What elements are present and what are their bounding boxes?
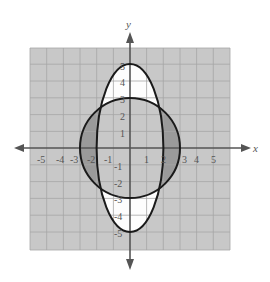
y-axis-label: y [125, 18, 131, 30]
svg-text:3: 3 [182, 154, 187, 165]
svg-text:-1: -1 [114, 161, 122, 172]
svg-text:5: 5 [211, 154, 216, 165]
svg-text:5: 5 [120, 61, 125, 72]
svg-text:-4: -4 [56, 154, 64, 165]
svg-text:-5: -5 [37, 154, 45, 165]
svg-text:-1: -1 [104, 154, 112, 165]
svg-text:-4: -4 [114, 211, 122, 222]
y-axis-up-arrow-icon [126, 32, 134, 43]
svg-text:3: 3 [120, 94, 125, 105]
svg-text:1: 1 [120, 128, 125, 139]
svg-text:1: 1 [144, 154, 149, 165]
x-axis-right-arrow-icon [241, 144, 251, 152]
svg-text:-5: -5 [114, 228, 122, 239]
svg-text:2: 2 [161, 154, 166, 165]
graph: x y -5 -4 -3 -2 -1 1 2 3 4 5 5 4 3 2 1 -… [0, 0, 270, 282]
svg-text:2: 2 [120, 111, 125, 122]
svg-text:4: 4 [120, 77, 125, 88]
y-axis-down-arrow-icon [126, 259, 134, 270]
x-axis-left-arrow-icon [14, 144, 24, 152]
svg-text:-3: -3 [70, 154, 78, 165]
svg-text:-2: -2 [114, 178, 122, 189]
x-axis-label: x [252, 142, 258, 154]
svg-text:-3: -3 [114, 194, 122, 205]
svg-text:4: 4 [194, 154, 199, 165]
svg-text:-2: -2 [87, 154, 95, 165]
